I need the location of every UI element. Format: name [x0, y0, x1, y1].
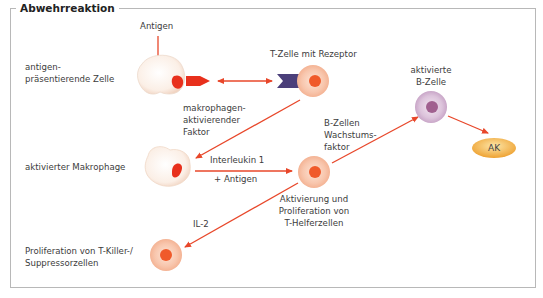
label-ak: AK	[472, 142, 516, 154]
label-tkiller-line2: Suppressorzellen	[25, 258, 99, 269]
label-bcgf-line2: Wachstums-	[324, 130, 377, 141]
label-maf-line1: makrophagen-	[183, 103, 246, 114]
label-activated-bcell-line1: aktivierte	[406, 65, 456, 76]
label-activated-bcell-line2: B-Zelle	[406, 77, 456, 88]
label-activated-macrophage: aktivierter Makrophage	[25, 162, 125, 173]
label-il2: IL-2	[193, 219, 209, 230]
label-antigen: Antigen	[140, 21, 173, 32]
label-th-line2: Proliferation von	[264, 206, 364, 217]
label-maf-line3: Faktor	[183, 127, 210, 138]
antigen-presenting-cell	[138, 55, 211, 94]
activated-b-cell	[415, 91, 447, 123]
label-apc-line2: präsentierende Zelle	[25, 74, 114, 85]
label-tkiller-line1: Proliferation von T-Killer-/	[25, 246, 133, 257]
label-bcgf-line1: B-Zellen	[324, 118, 360, 129]
t-killer-cell	[150, 239, 182, 271]
label-bcgf-line3: faktor	[324, 142, 349, 153]
label-apc-line1: antigen-	[25, 62, 61, 73]
t-cell-with-receptor	[277, 65, 329, 97]
label-interleukin1: Interleukin 1	[210, 155, 264, 166]
label-maf-line2: aktivierender	[183, 115, 240, 126]
label-th-line3: T-Helferzellen	[264, 218, 364, 229]
activated-macrophage	[145, 147, 190, 187]
label-th-line1: Aktivierung und	[264, 194, 364, 205]
antibody-arrow	[448, 116, 488, 133]
label-plus-antigen: + Antigen	[214, 174, 257, 185]
label-t-cell-receptor: T-Zelle mit Rezeptor	[270, 49, 357, 60]
t-helper-cell	[298, 156, 330, 188]
